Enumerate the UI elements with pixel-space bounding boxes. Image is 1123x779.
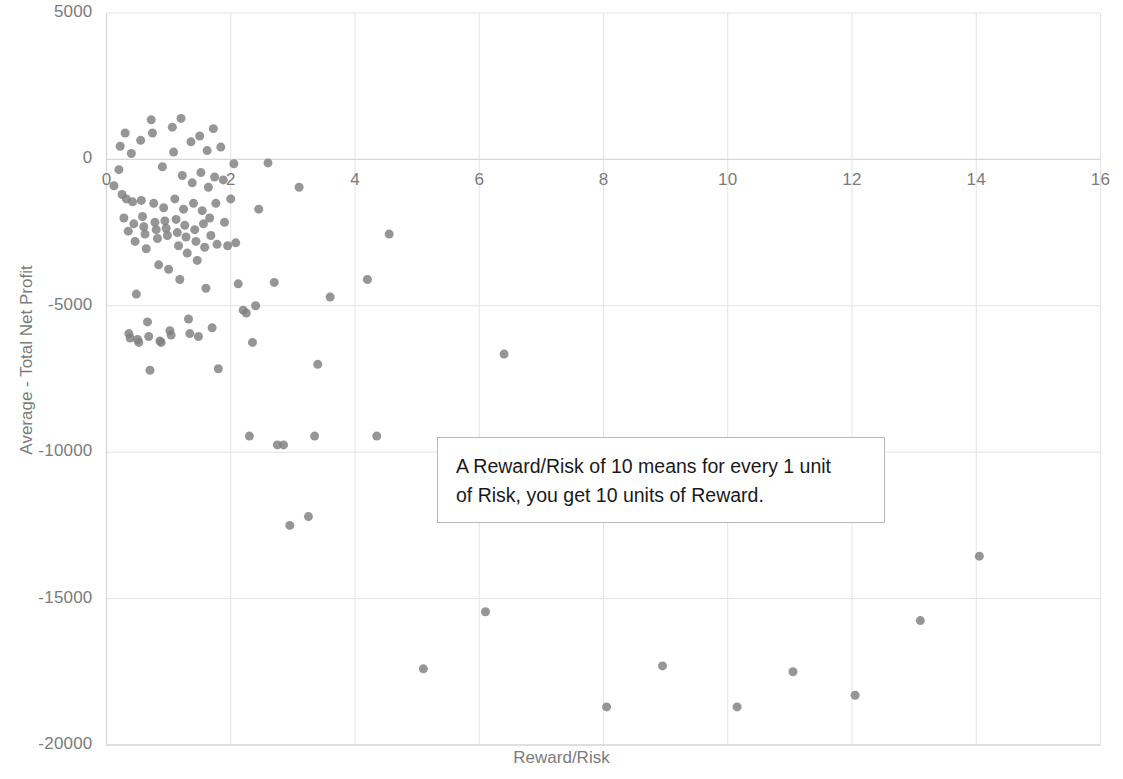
annotation-line-2: of Risk, you get 10 units of Reward. <box>456 481 866 510</box>
data-point <box>481 607 490 616</box>
data-point <box>211 199 220 208</box>
data-point <box>158 162 167 171</box>
data-point <box>149 199 158 208</box>
data-point <box>138 212 147 221</box>
data-point <box>419 664 428 673</box>
data-point <box>251 301 260 310</box>
data-point <box>216 143 225 152</box>
x-tick-label: 14 <box>946 170 1006 190</box>
data-point <box>119 213 128 222</box>
y-axis-title: Average - Total Net Profit <box>17 245 37 475</box>
y-tick-label: -15000 <box>0 588 93 608</box>
data-point <box>173 228 182 237</box>
x-tick-label: 2 <box>201 170 261 190</box>
data-point <box>733 702 742 711</box>
x-tick-label: 10 <box>698 170 758 190</box>
data-point <box>180 221 189 230</box>
x-tick-label: 6 <box>449 170 509 190</box>
data-point <box>153 234 162 243</box>
data-point <box>148 129 157 138</box>
data-point <box>285 521 294 530</box>
data-point <box>916 616 925 625</box>
data-point <box>602 702 611 711</box>
data-point <box>310 432 319 441</box>
data-point <box>157 338 166 347</box>
data-point <box>128 197 137 206</box>
data-point <box>851 691 860 700</box>
data-point <box>145 366 154 375</box>
data-point <box>183 249 192 258</box>
data-point <box>124 227 133 236</box>
data-point <box>363 275 372 284</box>
data-point <box>245 432 254 441</box>
data-point <box>220 218 229 227</box>
data-point <box>152 225 161 234</box>
gridlines <box>107 13 1101 745</box>
x-tick-label: 16 <box>1071 170 1123 190</box>
data-point <box>223 241 232 250</box>
data-point <box>143 317 152 326</box>
data-point <box>170 194 179 203</box>
data-point <box>279 440 288 449</box>
data-point <box>270 278 279 287</box>
data-point <box>164 265 173 274</box>
data-point <box>184 314 193 323</box>
y-tick-label: 5000 <box>0 2 93 22</box>
data-point <box>147 115 156 124</box>
data-point <box>242 309 251 318</box>
data-point <box>178 171 187 180</box>
data-point <box>208 323 217 332</box>
data-points <box>109 114 983 712</box>
scatter-chart: 50000-5000-10000-15000-20000 02468101214… <box>0 0 1123 779</box>
data-point <box>254 205 263 214</box>
data-point <box>121 129 130 138</box>
data-point <box>195 131 204 140</box>
data-point <box>126 334 135 343</box>
data-point <box>372 432 381 441</box>
data-point <box>295 183 304 192</box>
data-point <box>131 237 140 246</box>
data-point <box>186 137 195 146</box>
data-point <box>142 244 151 253</box>
data-point <box>201 284 210 293</box>
data-point <box>213 240 222 249</box>
data-point <box>185 329 194 338</box>
data-point <box>229 159 238 168</box>
data-point <box>141 230 150 239</box>
data-point <box>190 225 199 234</box>
data-point <box>385 230 394 239</box>
data-point <box>248 338 257 347</box>
data-point <box>172 215 181 224</box>
data-point <box>188 178 197 187</box>
y-tick-label: 0 <box>0 148 93 168</box>
x-tick-label: 0 <box>77 170 137 190</box>
data-point <box>189 199 198 208</box>
data-point <box>175 275 184 284</box>
data-point <box>194 332 203 341</box>
data-point <box>198 206 207 215</box>
annotation-textbox: A Reward/Risk of 10 means for every 1 un… <box>437 437 885 523</box>
data-point <box>144 332 153 341</box>
data-point <box>209 124 218 133</box>
data-point <box>168 123 177 132</box>
data-point <box>159 203 168 212</box>
data-point <box>500 350 509 359</box>
data-point <box>132 290 141 299</box>
data-point <box>206 231 215 240</box>
data-point <box>182 232 191 241</box>
data-point <box>193 256 202 265</box>
data-point <box>179 205 188 214</box>
data-point <box>226 194 235 203</box>
data-point <box>169 148 178 157</box>
data-point <box>214 364 223 373</box>
data-point <box>788 667 797 676</box>
data-point <box>975 552 984 561</box>
x-axis-title: Reward/Risk <box>0 748 1123 768</box>
data-point <box>136 136 145 145</box>
data-point <box>200 243 209 252</box>
y-tick-label: -10000 <box>0 441 93 461</box>
data-point <box>205 213 214 222</box>
x-tick-label: 4 <box>325 170 385 190</box>
data-point <box>658 661 667 670</box>
data-point <box>313 360 322 369</box>
